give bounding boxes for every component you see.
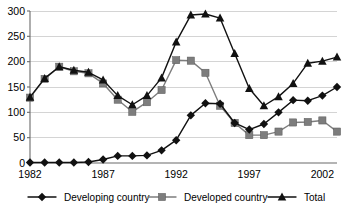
data-point-square-marker <box>319 117 326 124</box>
data-point-diamond-marker <box>38 193 46 201</box>
data-point-triangle-marker <box>245 84 254 92</box>
data-point-square-marker <box>158 86 165 93</box>
x-tick-label: 1987 <box>91 168 115 180</box>
series-total <box>26 10 342 110</box>
data-point-diamond-marker <box>143 151 151 159</box>
y-tick-label: 50 <box>13 131 25 143</box>
legend-label: Total <box>304 192 325 203</box>
y-tick-label: 250 <box>7 30 25 42</box>
x-tick-label: 1997 <box>238 168 262 180</box>
data-point-triangle-marker <box>172 37 181 45</box>
data-point-diamond-marker <box>304 96 312 104</box>
data-point-diamond-marker <box>84 158 92 166</box>
line-chart: 050100150200250300 19821987199219972002 … <box>0 0 347 216</box>
data-point-diamond-marker <box>318 91 326 99</box>
data-point-diamond-marker <box>172 136 180 144</box>
legend-item-total[interactable]: Total <box>268 192 325 203</box>
data-point-square-marker <box>129 108 136 115</box>
legend-item-developed-country[interactable]: Developed country <box>148 192 267 203</box>
data-point-square-marker <box>173 57 180 64</box>
data-point-diamond-marker <box>157 146 165 154</box>
data-point-square-marker <box>187 57 194 64</box>
x-axis-tick-labels: 19821987199219972002 <box>18 168 334 180</box>
data-point-triangle-marker <box>333 53 342 61</box>
data-point-square-marker <box>290 119 297 126</box>
data-point-square-marker <box>333 128 340 135</box>
data-point-diamond-marker <box>114 152 122 160</box>
data-point-diamond-marker <box>70 158 78 166</box>
data-point-diamond-marker <box>333 83 341 91</box>
y-axis-tick-labels: 050100150200250300 <box>7 5 30 169</box>
y-tick-label: 150 <box>7 81 25 93</box>
y-tick-label: 200 <box>7 55 25 67</box>
data-point-square-marker <box>304 118 311 125</box>
data-point-square-marker <box>260 132 267 139</box>
data-point-diamond-marker <box>26 158 34 166</box>
legend-label: Developed country <box>184 192 267 203</box>
data-point-square-marker <box>143 99 150 106</box>
y-tick-label: 300 <box>7 5 25 17</box>
data-point-triangle-marker <box>157 73 166 81</box>
data-point-diamond-marker <box>128 152 136 160</box>
chart-canvas: 050100150200250300 19821987199219972002 … <box>0 0 347 216</box>
data-point-square-marker <box>202 69 209 76</box>
x-tick-label: 2002 <box>311 168 335 180</box>
data-series-layer <box>26 10 342 167</box>
chart-legend: Developing countryDeveloped countryTotal <box>28 192 325 203</box>
data-point-triangle-marker <box>128 100 137 108</box>
x-tick-label: 1992 <box>165 168 189 180</box>
data-point-diamond-marker <box>40 158 48 166</box>
data-point-triangle-marker <box>99 75 108 83</box>
y-tick-label: 100 <box>7 106 25 118</box>
legend-item-developing-country[interactable]: Developing country <box>28 192 150 203</box>
data-point-diamond-marker <box>55 158 63 166</box>
data-point-square-marker <box>158 193 165 200</box>
y-tick-label: 0 <box>19 157 25 169</box>
legend-label: Developing country <box>64 192 150 203</box>
x-tick-label: 1982 <box>18 168 42 180</box>
data-point-triangle-marker <box>230 49 239 57</box>
data-point-square-marker <box>275 128 282 135</box>
data-point-diamond-marker <box>99 155 107 163</box>
